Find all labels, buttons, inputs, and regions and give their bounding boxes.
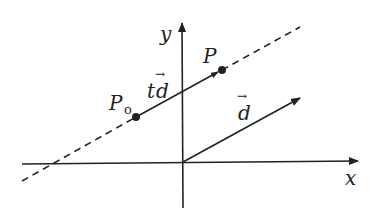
line-dashed-upper <box>222 27 300 70</box>
td-label-d: d <box>156 79 169 103</box>
vector-line-diagram: y x P o t d → P d → <box>0 0 381 212</box>
p0-subscript: o <box>124 102 132 117</box>
x-axis <box>22 161 358 164</box>
p-label: P <box>202 44 217 68</box>
d-label: d <box>238 101 251 125</box>
x-axis-label: x <box>345 166 356 190</box>
y-axis <box>182 23 183 208</box>
p0-label: P <box>108 91 123 115</box>
point-p0 <box>132 113 140 121</box>
point-p <box>218 66 226 74</box>
td-arrow: → <box>155 67 165 81</box>
y-axis-label: y <box>159 22 172 46</box>
td-label-t: t <box>147 79 156 103</box>
line-dashed-lower <box>22 117 136 181</box>
d-arrow: → <box>237 89 247 103</box>
